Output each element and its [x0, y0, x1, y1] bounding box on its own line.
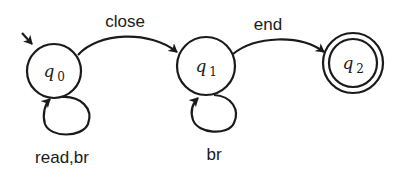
svg-text:2: 2: [356, 62, 364, 76]
state-label-q0: q: [44, 61, 55, 81]
transition-q1-q2: end: [233, 15, 324, 54]
automaton-diagram: close end read,br br q 0 q 1 q 2: [0, 0, 399, 174]
state-q2-accepting: q 2: [323, 33, 383, 93]
initial-state-arrow: [22, 33, 32, 44]
transition-label-end: end: [254, 15, 282, 34]
transition-label-br: br: [206, 145, 221, 164]
transition-label-close: close: [105, 12, 145, 31]
svg-text:0: 0: [57, 70, 65, 84]
transition-label-read-br: read,br: [35, 148, 89, 167]
svg-text:1: 1: [209, 65, 217, 79]
transition-q0-q1: close: [78, 12, 177, 55]
state-label-q1: q: [196, 56, 207, 76]
self-loop-q1: br: [192, 95, 236, 164]
self-loop-q0: read,br: [35, 97, 89, 167]
state-q0: q 0: [27, 44, 81, 98]
state-q1: q 1: [177, 37, 235, 95]
state-label-q2: q: [343, 53, 354, 73]
